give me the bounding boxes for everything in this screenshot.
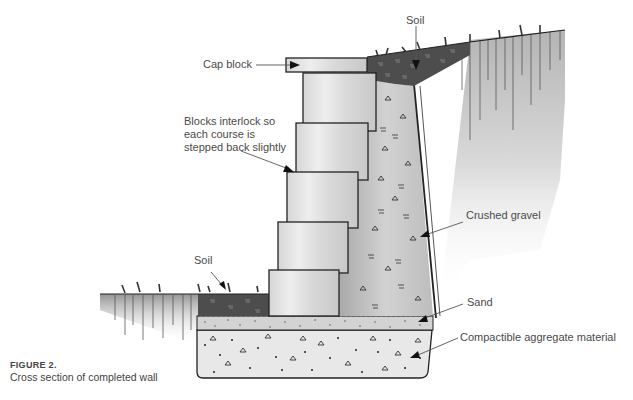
sand-label: Sand <box>467 296 493 309</box>
blocks-interlock-label: Blocks interlock so each course is stepp… <box>184 115 289 154</box>
wall-block-5 <box>269 270 339 316</box>
crushed-gravel-label: Crushed gravel <box>466 209 541 222</box>
wall-block-1 <box>303 73 376 131</box>
aggregate-base <box>197 330 432 378</box>
sand-layer <box>197 316 433 330</box>
figure-number: FIGURE 2. <box>10 360 57 370</box>
wall-block-4 <box>278 222 348 273</box>
native-earth-upper <box>440 30 565 300</box>
native-earth-lower <box>100 294 198 345</box>
soil-top-label: Soil <box>406 14 424 27</box>
cap-block-label: Cap block <box>203 58 252 71</box>
compactible-aggregate-label: Compactible aggregate material <box>460 331 616 344</box>
soil-bottom-label: Soil <box>194 254 212 267</box>
wall-block-3 <box>287 172 358 228</box>
figure-caption: Cross section of completed wall <box>10 371 158 383</box>
